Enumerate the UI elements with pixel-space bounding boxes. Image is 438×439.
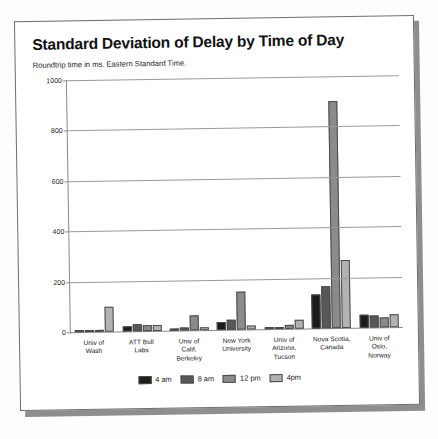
legend-item: 4 am [138, 375, 172, 385]
ytick-label-600: 600 [52, 178, 64, 185]
legend-label: 4 am [155, 375, 172, 384]
bar [132, 325, 141, 332]
bar-group [67, 80, 118, 333]
ytick-mark-0 [67, 332, 71, 333]
legend-swatch [223, 374, 236, 382]
bar-group [162, 78, 213, 331]
plot-area: 02004006008001000 Univ ofWashATT BellLab… [33, 69, 404, 371]
bar [247, 326, 256, 330]
bar [237, 292, 247, 330]
ytick-label-400: 400 [53, 228, 65, 235]
bar [170, 329, 179, 331]
legend-label: 8 am [198, 374, 215, 383]
bar [379, 317, 388, 327]
bar [105, 307, 114, 332]
bar [275, 327, 284, 329]
legend-item: 12 pm [223, 373, 261, 383]
x-axis-labels: Univ ofWashATT BellLabsUniv ofCalif,Berk… [70, 334, 403, 364]
chart-legend: 4 am8 am12 pm4pm [21, 371, 419, 386]
ytick-label-0: 0 [62, 329, 66, 336]
bar-group [257, 77, 308, 330]
ytick-label-1000: 1000 [46, 77, 62, 84]
bar [359, 315, 368, 328]
ytick-label-200: 200 [53, 278, 65, 285]
x-axis-label: ATT BellLabs [118, 338, 166, 364]
x-axis-label: Univ ofWash [70, 339, 118, 365]
bar [389, 315, 398, 328]
bar [217, 322, 226, 330]
ytick-mark-1000 [63, 80, 67, 81]
chart-subtitle: Roundtrip time in ms. Eastern Standard T… [33, 58, 187, 69]
bar [295, 320, 304, 329]
bar-group [209, 77, 260, 330]
bar [369, 316, 378, 328]
legend-label: 4pm [287, 373, 302, 382]
bar [341, 260, 351, 328]
bar [95, 330, 104, 332]
legend-label: 12 pm [240, 373, 261, 382]
chart-card-wrapper: Standard Deviation of Delay by Time of D… [14, 15, 420, 411]
bar [152, 325, 161, 331]
legend-item: 4pm [270, 373, 302, 382]
bar [227, 320, 236, 330]
bar [200, 327, 209, 330]
bar-group [304, 76, 355, 329]
legend-swatch [181, 375, 194, 383]
ytick-label-800: 800 [51, 127, 63, 134]
bar [285, 325, 294, 329]
bar-groups [67, 75, 403, 332]
bar-group [351, 75, 402, 328]
ytick-mark-600 [64, 181, 68, 182]
bar [190, 315, 199, 330]
bar [75, 330, 84, 332]
x-axis-label: Univ ofCalif,Berkeley [165, 337, 213, 363]
ytick-mark-200 [66, 282, 70, 283]
ytick-mark-400 [65, 232, 69, 233]
bar [180, 328, 189, 331]
bar-group [114, 79, 165, 332]
screenshot-stage: Standard Deviation of Delay by Time of D… [0, 0, 438, 439]
legend-item: 8 am [181, 374, 215, 384]
legend-swatch [138, 376, 151, 384]
x-axis-label: New YorkUniversity [213, 336, 261, 362]
bar [321, 287, 331, 329]
bar [142, 325, 151, 331]
bar [122, 327, 131, 332]
bar [312, 294, 322, 328]
x-axis-label: Univ ofOslo,Norway [355, 334, 403, 360]
x-axis-label: Univ ofArizona,Tucson [260, 336, 308, 362]
ytick-mark-800 [64, 131, 68, 132]
x-axis-label: Nova Scotia,Canada [308, 335, 356, 361]
chart-title: Standard Deviation of Delay by Time of D… [32, 31, 344, 54]
legend-swatch [270, 373, 283, 381]
axis-area: 02004006008001000 [66, 75, 403, 333]
bar [85, 330, 94, 332]
chart-card: Standard Deviation of Delay by Time of D… [14, 15, 420, 411]
bar [265, 327, 274, 329]
